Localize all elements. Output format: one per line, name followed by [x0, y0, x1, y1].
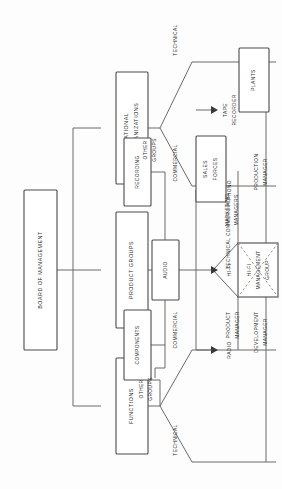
- plants-label: PLANTS: [251, 69, 256, 91]
- box-plants[interactable]: PLANTS: [239, 48, 269, 112]
- box-sales-forces[interactable]: SALES FORCES: [196, 136, 226, 202]
- hifi-management-group-label-line1: HI-FI: [247, 264, 252, 277]
- label-development-manager-line1: DEVELOPMENT: [254, 311, 259, 352]
- box-board-of-management[interactable]: BOARD OF MANAGEMENT: [24, 190, 57, 350]
- components-label: COMPONENTS: [135, 325, 140, 364]
- box-components[interactable]: COMPONENTS: [124, 310, 151, 380]
- sales-forces-label-line2: FORCES: [213, 157, 218, 180]
- board-of-management-label: BOARD OF MANAGEMENT: [37, 231, 43, 309]
- label-product-manager-line1: PRODUCT: [226, 312, 231, 339]
- recording-label: RECORDING: [135, 155, 140, 189]
- hifi-management-group-label-line3: GROUP: [265, 260, 270, 280]
- arrow-hifi: [211, 266, 218, 274]
- other-groups-national-line1: OTHER: [143, 140, 148, 159]
- label-product-manager-line2: MANAGER: [235, 311, 240, 339]
- label-marketing-managers-line2: MANAGERS: [234, 194, 239, 226]
- label-tape-recorder-line1: TAPE: [223, 103, 228, 117]
- other-groups-product-line2: GROUPS: [148, 377, 153, 401]
- box-audio[interactable]: AUDIO: [152, 240, 179, 300]
- functions-label: FUNCTIONS: [128, 388, 134, 424]
- label-production-manager-line2: MANAGER: [263, 158, 268, 186]
- label-radio: RADIO: [227, 341, 232, 359]
- audio-label: AUDIO: [163, 261, 168, 279]
- label-functions-technical: TECHNICAL: [173, 424, 178, 455]
- sales-forces-label-line1: SALES: [203, 160, 208, 178]
- arrow-tape-recorder: [211, 106, 218, 114]
- label-national-technical: TECHNICAL: [173, 24, 178, 55]
- label-national-commercial: COMMERCIAL: [173, 144, 178, 181]
- diagram-canvas: BOARD OF MANAGEMENT PRODUCT GROUPS NATIO…: [0, 0, 282, 489]
- hifi-management-group-label-line2: MANAGEMENT: [256, 250, 261, 289]
- label-development-manager-line2: MANAGER: [263, 318, 268, 346]
- other-groups-national-line2: GROUPS: [152, 138, 157, 162]
- label-production-manager-line1: PRODUCTION: [254, 154, 259, 191]
- product-groups-label: PRODUCT GROUPS: [128, 241, 134, 299]
- label-tape-recorder-line2: RECORDER: [232, 94, 237, 125]
- other-groups-product-line1: OTHER: [139, 379, 144, 398]
- label-marketing-managers-line1: MARKETING: [225, 194, 230, 227]
- label-functions-commercial: COMMERCIAL: [173, 311, 178, 348]
- org-chart-svg: BOARD OF MANAGEMENT PRODUCT GROUPS NATIO…: [0, 0, 282, 489]
- box-hifi-management-group[interactable]: HI-FI MANAGEMENT GROUP: [238, 243, 278, 297]
- arrow-radio: [211, 346, 218, 354]
